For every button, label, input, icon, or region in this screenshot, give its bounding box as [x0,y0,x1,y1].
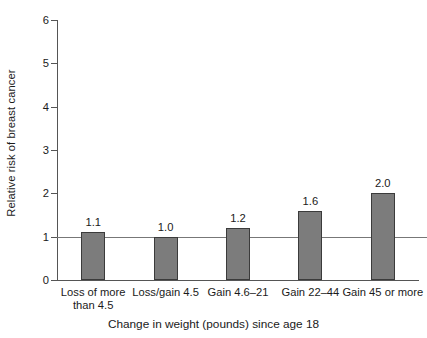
y-axis-tick-label: 1 [43,231,49,243]
x-axis-line [57,280,419,281]
bar-value-label: 2.0 [375,177,391,189]
y-axis-tick-mark [51,63,57,64]
bar-chart: Relative risk of breast cancer 0123456 1… [0,0,427,338]
y-axis-line [57,20,58,281]
y-axis-title-text: Relative risk of breast cancer [5,69,17,216]
y-axis-tick-mark [51,237,57,238]
x-axis-category-label: Loss/gain 4.5 [132,286,199,299]
bar-value-label: 1.0 [158,221,174,233]
y-axis-tick-mark [51,150,57,151]
y-axis-tick-label: 6 [43,14,49,26]
bar-value-label: 1.6 [303,195,319,207]
x-axis-category-labels: Loss of morethan 4.5Loss/gain 4.5Gain 4.… [57,286,427,316]
x-axis-category-label: Gain 45 or more [342,286,423,299]
y-axis-tick-label: 0 [43,274,49,286]
y-axis-tick-mark [51,107,57,108]
bar-value-label: 1.1 [85,216,101,228]
y-axis-tick-mark [51,280,57,281]
y-axis-title: Relative risk of breast cancer [0,0,22,285]
bar [226,228,250,280]
x-axis-category-label: Loss of morethan 4.5 [61,286,126,311]
x-axis-title: Change in weight (pounds) since age 18 [0,317,427,331]
x-axis-category-label: Gain 4.6–21 [208,286,269,299]
bar [154,237,178,280]
y-axis-tick-label: 3 [43,144,49,156]
y-axis-tick-label: 5 [43,57,49,69]
bar-value-label: 1.2 [230,212,246,224]
bar [81,232,105,280]
plot-area: 0123456 1.11.01.21.62.0 [57,14,427,281]
y-axis-tick-mark [51,20,57,21]
x-axis-category-label: Gain 22–44 [281,286,339,299]
bar [371,193,395,280]
bar [298,211,322,280]
y-axis-tick-label: 2 [43,187,49,199]
y-axis-tick-label: 4 [43,101,49,113]
y-axis-tick-mark [51,193,57,194]
